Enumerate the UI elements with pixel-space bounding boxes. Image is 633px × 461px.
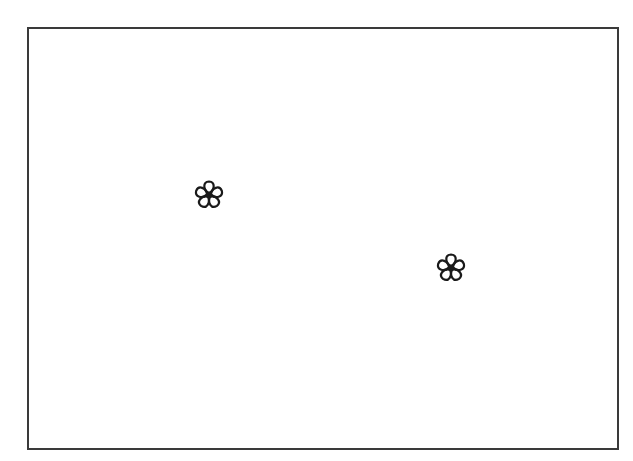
flower-glyph [193, 179, 225, 211]
flower-glyph [435, 252, 467, 284]
flower-center [448, 265, 454, 271]
flower-icon [193, 179, 225, 211]
flower-center [206, 192, 212, 198]
canvas-frame [27, 27, 619, 450]
flower-icon [435, 252, 467, 284]
